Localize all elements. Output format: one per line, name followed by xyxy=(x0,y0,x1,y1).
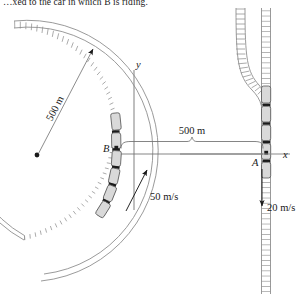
y-axis-label: y xyxy=(135,59,141,70)
point-b-marker xyxy=(114,146,118,150)
train-a-car xyxy=(262,125,271,141)
curved-track-inner-rail xyxy=(14,27,153,274)
train-a-car xyxy=(262,162,271,178)
train-b-car xyxy=(110,113,121,131)
branch-track-right-rail xyxy=(245,8,263,96)
branch-track-ties xyxy=(236,9,262,94)
curved-track-lower-segment xyxy=(0,198,25,240)
train-b-car-at-point-b xyxy=(111,150,121,166)
radius-leader-line xyxy=(39,49,94,154)
separation-brace xyxy=(121,137,263,149)
radius-label: 500 m xyxy=(44,94,66,123)
figure-container: …xed to the car in which B is riding. xyxy=(0,0,303,294)
separation-dimension: 500 m xyxy=(121,125,263,154)
train-a xyxy=(262,86,271,178)
separation-label: 500 m xyxy=(179,125,206,136)
train-b-car xyxy=(108,168,120,185)
x-axis-label: x xyxy=(282,149,288,160)
velocity-b-arrow xyxy=(126,170,147,211)
point-a-label: A xyxy=(251,157,259,168)
train-a-car xyxy=(262,86,271,103)
train-a-car xyxy=(262,106,271,122)
branch-track xyxy=(236,8,263,106)
diagram-canvas: 500 m xyxy=(0,0,303,294)
radius-dimension: 500 m xyxy=(35,49,93,157)
velocity-a-label: 20 m/s xyxy=(267,202,295,213)
velocity-b-label: 50 m/s xyxy=(150,191,178,202)
point-b-label: B xyxy=(103,143,110,154)
train-b xyxy=(95,113,122,219)
branch-track-left-rail xyxy=(236,8,262,106)
